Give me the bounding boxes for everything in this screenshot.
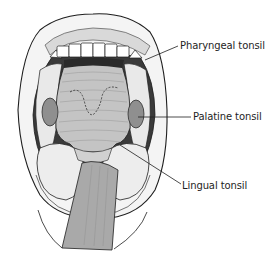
- tonsil-anatomy-figure: Pharyngeal tonsil Palatine tonsil Lingua…: [0, 0, 273, 265]
- palatine-tonsil-label: Palatine tonsil: [193, 111, 262, 123]
- right-palatine-tonsil: [128, 100, 144, 128]
- lower-jaw-arc-left: [38, 210, 62, 248]
- left-palatine-tonsil: [42, 98, 58, 126]
- posterior-pharyngeal-wall: [56, 63, 131, 152]
- lower-jaw-arc-right: [114, 212, 147, 249]
- pharyngeal-tonsil-label: Pharyngeal tonsil: [180, 40, 265, 52]
- lingual-tonsil-label: Lingual tonsil: [182, 180, 247, 192]
